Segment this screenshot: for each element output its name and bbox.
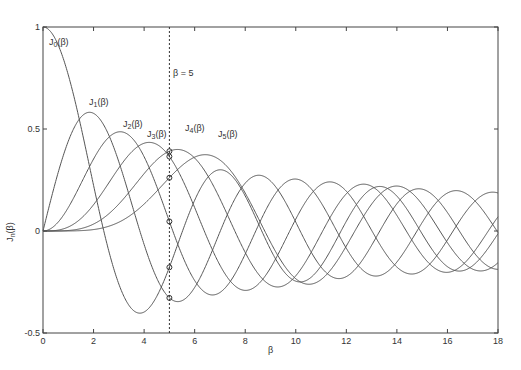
x-axis-label: β — [268, 345, 273, 355]
y-axis-label: Jn(β) — [5, 222, 16, 242]
x-tick-label: 4 — [142, 336, 147, 346]
x-tick-label: 16 — [442, 336, 452, 346]
curve-label-j3: J3(β) — [147, 129, 167, 140]
vline-label: β = 5 — [173, 68, 193, 78]
curve-label-j2: J2(β) — [123, 119, 143, 130]
bessel-chart: 024681012141618-0.500.51 β = 5 β Jn(β) J… — [0, 0, 521, 370]
x-tick-label: 10 — [291, 336, 301, 346]
curve-label-j5: J5(β) — [218, 129, 238, 140]
y-tick-label: -0.5 — [24, 328, 40, 338]
y-tick-label: 0.5 — [27, 124, 40, 134]
x-tick-label: 2 — [91, 336, 96, 346]
x-tick-label: 14 — [392, 336, 402, 346]
x-tick-label: 8 — [243, 336, 248, 346]
curve-label-j4: J4(β) — [185, 123, 205, 134]
curve-label-j0: J0(β) — [49, 37, 69, 48]
x-tick-label: 18 — [493, 336, 503, 346]
y-tick-label: 1 — [35, 22, 40, 32]
x-tick-label: 6 — [192, 336, 197, 346]
svg-text:Jn(β): Jn(β) — [5, 222, 16, 242]
y-tick-label: 0 — [35, 226, 40, 236]
curve-label-j1: J1(β) — [89, 97, 109, 108]
x-tick-label: 12 — [341, 336, 351, 346]
x-tick-label: 0 — [40, 336, 45, 346]
